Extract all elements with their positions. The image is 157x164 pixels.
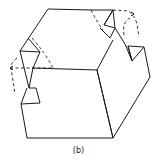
right-dashed-arrow — [113, 10, 139, 37]
figure-caption: (b) — [0, 146, 157, 155]
right-notch — [100, 10, 144, 61]
front-face — [21, 70, 113, 138]
right-dashed-path — [91, 10, 103, 30]
block-diagram — [0, 0, 157, 164]
left-dashed-arrow — [11, 58, 17, 94]
dashed-arrows — [10, 10, 139, 94]
left-notch — [20, 38, 40, 104]
top-face — [20, 9, 113, 70]
